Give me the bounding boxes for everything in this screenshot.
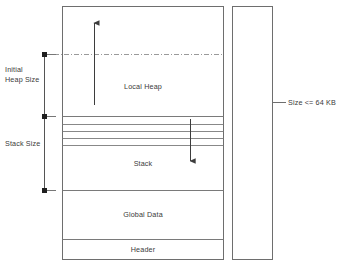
annotation-total-size: Size <= 64 KB bbox=[288, 98, 340, 108]
bracket-marker-square bbox=[42, 52, 47, 57]
total-size-box bbox=[233, 7, 273, 260]
segment-outline-box bbox=[63, 7, 224, 260]
segment-label-local-heap: Local Heap bbox=[62, 82, 224, 92]
segment-label-stack: Stack bbox=[62, 159, 224, 169]
memory-layout-diagram: Local Heap Stack Global Data Header Init… bbox=[0, 0, 341, 271]
bracket-marker-square bbox=[42, 114, 47, 119]
annotation-stack-size: Stack Size bbox=[5, 139, 50, 149]
segment-label-global-data: Global Data bbox=[62, 210, 224, 220]
bracket-marker-square bbox=[42, 188, 47, 193]
annotation-initial-heap-size: Initial Heap Size bbox=[5, 65, 45, 84]
diagram-vector-layer bbox=[0, 0, 341, 271]
segment-label-header: Header bbox=[62, 245, 224, 255]
